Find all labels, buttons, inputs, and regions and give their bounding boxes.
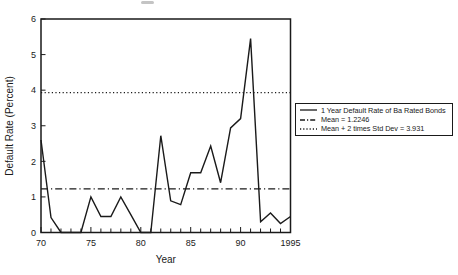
y-tick-label: 2: [31, 157, 36, 167]
default-rate-chart-figure: 707580859019950123456 Year Default Rate …: [0, 0, 458, 275]
y-tick-label: 4: [31, 85, 36, 95]
cropped-text-artifact: [141, 1, 154, 4]
x-axis-label: Year: [156, 254, 177, 265]
x-tick-label: 80: [136, 238, 146, 248]
x-tick-label: 90: [236, 238, 246, 248]
y-axis-label: Default Rate (Percent): [4, 76, 15, 176]
legend-label: Mean = 1.2246: [321, 116, 369, 123]
legend: 1 Year Default Rate of Ba Rated BondsMea…: [295, 103, 453, 136]
legend-swatch-dashdot: [299, 116, 318, 124]
y-tick-label: 0: [31, 228, 36, 238]
y-tick-label: 1: [31, 192, 36, 202]
x-tick-label: 1995: [280, 238, 300, 248]
y-tick-label: 3: [31, 121, 36, 131]
legend-label: Mean + 2 times Std Dev = 3.931: [321, 125, 424, 132]
x-tick-label: 85: [186, 238, 196, 248]
x-tick-label: 75: [86, 238, 96, 248]
line-chart: 707580859019950123456 Year Default Rate …: [0, 0, 458, 275]
legend-entry: Mean + 2 times Std Dev = 3.931: [299, 125, 450, 133]
plot-area: 707580859019950123456: [31, 14, 301, 248]
y-tick-label: 6: [31, 14, 36, 24]
x-tick-label: 70: [36, 238, 46, 248]
data-line: [41, 39, 291, 233]
legend-entry: Mean = 1.2246: [299, 116, 450, 124]
legend-entry: 1 Year Default Rate of Ba Rated Bonds: [299, 106, 450, 114]
plot-frame: [41, 19, 291, 233]
y-tick-label: 5: [31, 50, 36, 60]
legend-swatch-dotted: [299, 125, 318, 133]
legend-label: 1 Year Default Rate of Ba Rated Bonds: [321, 107, 446, 114]
legend-swatch-solid: [299, 106, 318, 114]
